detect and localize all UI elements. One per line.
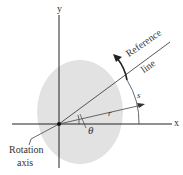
arc-s [127,80,139,124]
y-axis-label: y [57,3,62,14]
rotation-axis-label-2: axis [17,157,33,168]
origin-point [57,122,61,126]
x-axis-label: x [174,117,179,128]
rotation-arrowhead-icon [113,54,122,62]
radius-label: r [108,108,112,118]
rotation-axis-label-1: Rotation [9,144,43,155]
radius-arrowhead-icon [137,103,145,108]
theta-label: θ [88,124,93,136]
rotation-arrow [117,58,127,80]
arc-length-label: s [137,90,141,100]
